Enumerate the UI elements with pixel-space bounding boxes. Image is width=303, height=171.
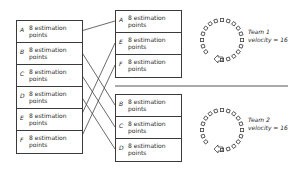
item-letter: F xyxy=(119,60,122,67)
team1-velocity: velocity = 16 xyxy=(248,36,288,44)
item-points: 8 estimation xyxy=(29,24,67,31)
item-points: 8 estimation xyxy=(29,68,67,75)
item-unit: points xyxy=(29,53,67,60)
item-unit: points xyxy=(29,119,67,126)
item-letter: E xyxy=(20,114,24,121)
item-letter: C xyxy=(119,122,123,129)
item-letter: E xyxy=(119,38,123,45)
item-points: 8 estimation xyxy=(29,134,67,141)
item-letter: F xyxy=(20,136,23,143)
team2-name: Team 2 xyxy=(248,116,288,124)
item-points: 8 estimation xyxy=(128,36,166,43)
team2-item-d: D 8 estimationpoints xyxy=(116,139,181,161)
team2-label-block: Team 2 velocity = 16 xyxy=(248,116,288,132)
item-letter: A xyxy=(119,16,123,23)
item-unit: points xyxy=(128,127,166,134)
item-unit: points xyxy=(29,31,67,38)
item-letter: D xyxy=(20,92,25,99)
item-points: 8 estimation xyxy=(29,46,67,53)
item-points: 8 estimation xyxy=(128,142,166,149)
team2-item-b: B 8 estimationpoints xyxy=(116,95,181,117)
item-unit: points xyxy=(128,21,166,28)
team1-item-f: F 8 estimationpoints xyxy=(116,55,181,77)
item-points: 8 estimation xyxy=(128,98,166,105)
item-unit: points xyxy=(128,65,166,72)
team2-sprint-cycle-icon xyxy=(196,104,248,156)
item-unit: points xyxy=(29,75,67,82)
team1-item-e: E 8 estimationpoints xyxy=(116,33,181,55)
item-points: 8 estimation xyxy=(128,120,166,127)
backlog-item-a: A 8 estimationpoints xyxy=(17,21,82,43)
team1-item-a: A 8 estimationpoints xyxy=(116,11,181,33)
item-letter: B xyxy=(119,100,123,107)
backlog-column: A 8 estimationpoints B 8 estimationpoint… xyxy=(16,20,83,154)
backlog-item-d: D 8 estimationpoints xyxy=(17,87,82,109)
item-unit: points xyxy=(128,43,166,50)
team2-velocity: velocity = 16 xyxy=(248,124,288,132)
item-letter: B xyxy=(20,48,24,55)
item-unit: points xyxy=(128,149,166,156)
item-letter: A xyxy=(20,26,24,33)
item-unit: points xyxy=(128,105,166,112)
item-unit: points xyxy=(29,141,67,148)
item-points: 8 estimation xyxy=(29,112,67,119)
item-points: 8 estimation xyxy=(128,58,166,65)
item-letter: C xyxy=(20,70,24,77)
item-points: 8 estimation xyxy=(29,90,67,97)
item-unit: points xyxy=(29,97,67,104)
team1-label-block: Team 1 velocity = 16 xyxy=(248,28,288,44)
item-letter: D xyxy=(119,144,124,151)
item-points: 8 estimation xyxy=(128,14,166,21)
backlog-item-b: B 8 estimationpoints xyxy=(17,43,82,65)
team1-name: Team 1 xyxy=(248,28,288,36)
team2-column: B 8 estimationpoints C 8 estimationpoint… xyxy=(115,94,182,162)
backlog-item-f: F 8 estimationpoints xyxy=(17,131,82,153)
team1-column: A 8 estimationpoints E 8 estimationpoint… xyxy=(115,10,182,78)
team2-item-c: C 8 estimationpoints xyxy=(116,117,181,139)
team1-sprint-cycle-icon xyxy=(196,14,248,66)
backlog-item-e: E 8 estimationpoints xyxy=(17,109,82,131)
backlog-item-c: C 8 estimationpoints xyxy=(17,65,82,87)
